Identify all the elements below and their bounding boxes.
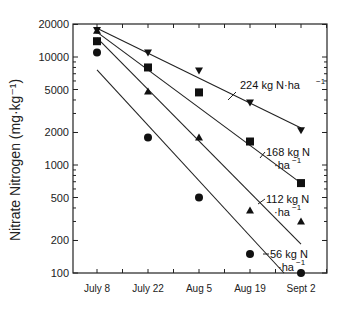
triangle-down-marker	[144, 50, 152, 57]
regression-line	[97, 32, 301, 183]
circle-marker	[195, 194, 203, 202]
y-tick-label: 10000	[38, 51, 69, 63]
circle-marker	[246, 250, 254, 258]
triangle-down-marker	[246, 99, 254, 106]
series-label-exponent: −1	[292, 156, 302, 165]
y-tick-label: 500	[51, 192, 69, 204]
y-axis-label: Nitrate Nitrogen (mg·kg⁻¹)	[7, 79, 23, 241]
triangle-down-marker	[297, 127, 305, 134]
series-label-unit: ·ha	[278, 261, 295, 273]
triangle-up-marker	[297, 217, 305, 224]
series-label-unit: ·ha	[274, 159, 291, 171]
y-tick-label: 100	[51, 267, 69, 279]
y-tick-label: 5000	[45, 84, 69, 96]
nitrate-chart: 1002005001000200050001000020000July 8Jul…	[0, 0, 344, 309]
square-marker	[195, 88, 203, 96]
series-label: 168 kg N	[266, 146, 310, 158]
triangle-down-marker	[195, 67, 203, 74]
series-label-exponent: −1	[316, 77, 326, 86]
x-tick-label: Sept 2	[287, 283, 316, 294]
x-tick-label: July 8	[84, 283, 111, 294]
x-tick-label: Aug 5	[186, 283, 213, 294]
series-label-exponent: −1	[292, 203, 302, 212]
square-marker	[246, 138, 254, 146]
x-tick-label: Aug 19	[234, 283, 266, 294]
y-tick-label: 20000	[38, 18, 69, 30]
x-tick-label: July 22	[132, 283, 164, 294]
circle-marker	[297, 269, 305, 277]
triangle-up-marker	[246, 206, 254, 213]
square-marker	[93, 37, 101, 45]
series-label: 224 kg N·ha	[240, 79, 301, 91]
square-marker	[297, 179, 305, 187]
triangle-up-marker	[144, 87, 152, 94]
series-label-exponent: −1	[296, 258, 306, 267]
square-marker	[144, 63, 152, 71]
circle-marker	[93, 49, 101, 57]
y-tick-label: 2000	[45, 126, 69, 138]
regression-line	[97, 70, 284, 273]
y-tick-label: 200	[51, 234, 69, 246]
series-label: 112 kg N	[266, 193, 309, 205]
circle-marker	[144, 133, 152, 141]
y-tick-label: 1000	[45, 159, 69, 171]
series-annotations: 224 kg N·ha−1168 kg N·ha−1112 kg N·ha−15…	[228, 77, 326, 273]
triangle-up-marker	[195, 133, 203, 140]
series-label-unit: ·ha	[274, 206, 291, 218]
